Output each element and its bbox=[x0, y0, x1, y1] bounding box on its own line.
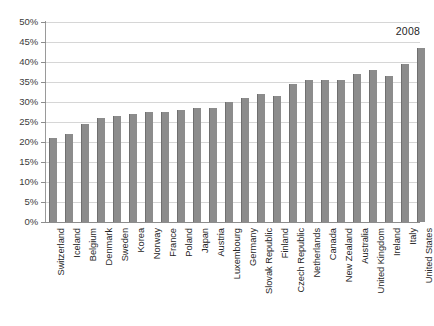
x-axis-label: Austria bbox=[216, 228, 226, 257]
bar bbox=[337, 80, 345, 222]
x-axis-label: Finland bbox=[280, 228, 290, 258]
y-axis-tick-label: 5% bbox=[0, 197, 38, 207]
bar bbox=[113, 116, 121, 222]
y-axis-tick-label: 50% bbox=[0, 17, 38, 27]
x-axis-label: Italy bbox=[408, 228, 418, 245]
x-axis-label: Denmark bbox=[104, 228, 114, 265]
y-axis-tick-label: 20% bbox=[0, 137, 38, 147]
y-axis-tick-label: 10% bbox=[0, 177, 38, 187]
x-axis-label: Netherlands bbox=[312, 228, 322, 278]
bar bbox=[321, 80, 329, 222]
bar bbox=[289, 84, 297, 222]
x-axis-label: United Kingdom bbox=[376, 228, 386, 293]
x-axis-label: Australia bbox=[360, 228, 370, 264]
bar bbox=[225, 102, 233, 222]
bar bbox=[273, 96, 281, 222]
x-axis-label: Iceland bbox=[72, 228, 82, 258]
x-axis-label: Luxembourg bbox=[232, 228, 242, 279]
bar bbox=[305, 80, 313, 222]
y-axis-tick-label: 45% bbox=[0, 37, 38, 47]
bar bbox=[209, 108, 217, 222]
bar bbox=[161, 112, 169, 222]
x-axis-label: Sweden bbox=[120, 228, 130, 261]
x-axis-label: Ireland bbox=[392, 228, 402, 256]
bar bbox=[401, 64, 409, 222]
bar bbox=[49, 138, 57, 222]
y-axis-tick-label: 25% bbox=[0, 117, 38, 127]
x-axis-label: New Zealand bbox=[344, 228, 354, 282]
x-axis-label: Switzerland bbox=[56, 228, 66, 276]
bar bbox=[145, 112, 153, 222]
x-axis-label: Belgium bbox=[88, 228, 98, 261]
x-axis-label: Poland bbox=[184, 228, 194, 257]
bar bbox=[385, 76, 393, 222]
bar bbox=[417, 48, 425, 222]
x-axis-label: France bbox=[168, 228, 178, 257]
x-axis-label: Norway bbox=[152, 228, 162, 259]
bar bbox=[257, 94, 265, 222]
bar bbox=[97, 118, 105, 222]
bar bbox=[369, 70, 377, 222]
plot-area bbox=[46, 22, 420, 222]
x-axis-line bbox=[45, 222, 420, 223]
bar bbox=[177, 110, 185, 222]
x-axis-label: Canada bbox=[328, 228, 338, 260]
y-axis-tick-label: 40% bbox=[0, 57, 38, 67]
x-axis-label: Germany bbox=[248, 228, 258, 266]
x-axis-label: Korea bbox=[136, 228, 146, 253]
x-axis-label: Slovak Republic bbox=[264, 228, 274, 294]
bar bbox=[81, 124, 89, 222]
y-axis-tick-label: 0% bbox=[0, 217, 38, 227]
bar bbox=[65, 134, 73, 222]
bar bbox=[129, 114, 137, 222]
y-axis-tick bbox=[41, 222, 46, 223]
bar bbox=[241, 98, 249, 222]
x-axis-label: Japan bbox=[200, 228, 210, 253]
y-axis-tick-label: 15% bbox=[0, 157, 38, 167]
x-axis-label: United States bbox=[424, 228, 434, 283]
bar bbox=[353, 74, 361, 222]
y-axis-tick-label: 35% bbox=[0, 77, 38, 87]
bar bbox=[193, 108, 201, 222]
y-axis-tick-label: 30% bbox=[0, 97, 38, 107]
x-axis-label: Czech Republic bbox=[296, 228, 306, 292]
